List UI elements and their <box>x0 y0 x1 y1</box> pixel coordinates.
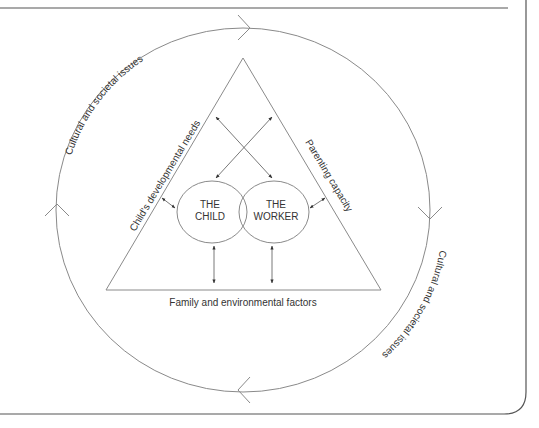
worker-right-arrow <box>310 198 325 208</box>
cycle-arrow-bottom-icon <box>238 377 250 403</box>
ring-label-top-left: Cultural and societal issues <box>63 53 145 157</box>
assessment-framework-diagram: Cultural and societal issues Cultural an… <box>0 0 539 428</box>
child-label-line1: THE <box>200 199 220 210</box>
assessment-triangle <box>106 58 381 290</box>
ring-label-bottom-right: Cultural and societal issues <box>380 250 449 361</box>
cycle-arrow-top-icon <box>238 15 250 40</box>
cycle-arrow-left-icon <box>45 204 69 216</box>
child-left-arrow <box>162 198 175 208</box>
worker-label-line1: THE <box>266 199 286 210</box>
outer-cycle-ring <box>45 15 442 403</box>
side-label-left: Child's developmental needs <box>127 118 202 233</box>
child-label-line2: CHILD <box>195 211 225 222</box>
worker-label-line2: WORKER <box>254 211 299 222</box>
page-frame <box>0 0 526 414</box>
side-label-base: Family and environmental factors <box>169 297 316 308</box>
